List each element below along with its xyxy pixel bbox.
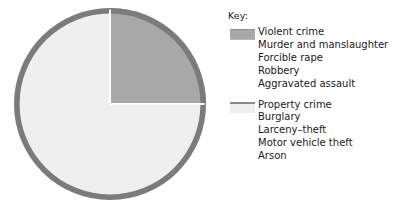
legend-item-arson: Arson	[258, 150, 396, 163]
legend-item-larceny-theft: Larceny–theft	[258, 124, 396, 137]
legend-item-forcible-rape: Forcible rape	[258, 52, 396, 65]
legend-group-violent-crime: Violent crime Murder and manslaughter Fo…	[226, 26, 396, 91]
legend-title: Key:	[228, 10, 396, 22]
legend-item-violent-crime: Violent crime	[258, 26, 396, 39]
pie-chart-svg	[14, 8, 206, 200]
legend-item-robbery: Robbery	[258, 65, 396, 78]
legend-group-property-crime: Property crime Burglary Larceny–theft Mo…	[226, 99, 396, 164]
property-crime-swatch	[230, 102, 255, 113]
violent-crime-swatch	[230, 29, 255, 40]
pie-chart	[14, 8, 206, 200]
legend-item-aggravated-assault: Aggravated assault	[258, 78, 396, 91]
legend-item-motor-vehicle-theft: Motor vehicle theft	[258, 137, 396, 150]
legend: Key: Violent crime Murder and manslaught…	[226, 10, 396, 171]
pie-chart-figure: Key: Violent crime Murder and manslaught…	[0, 0, 399, 210]
legend-item-burglary: Burglary	[258, 111, 396, 124]
legend-item-property-crime: Property crime	[258, 99, 396, 112]
legend-item-murder-and-manslaughter: Murder and manslaughter	[258, 39, 396, 52]
